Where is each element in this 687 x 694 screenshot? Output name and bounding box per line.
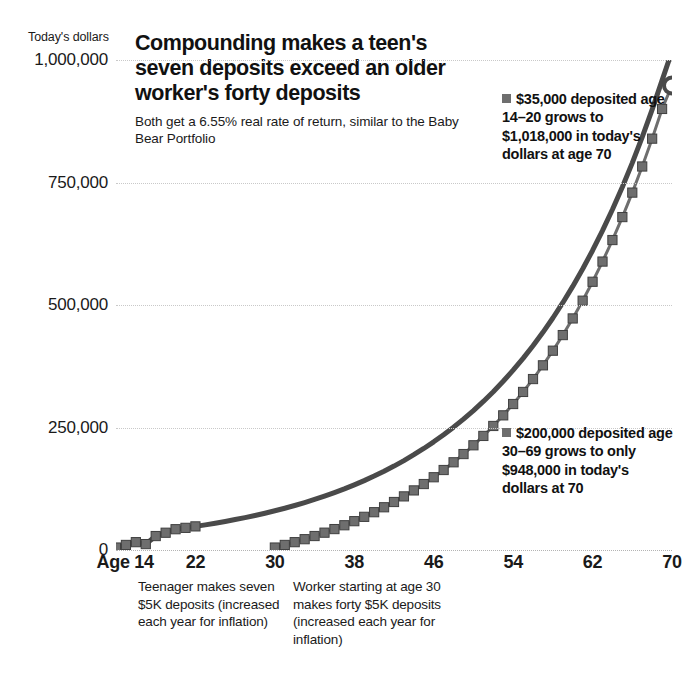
footnote-worker: Worker starting at age 30 makes forty $5… <box>293 578 458 648</box>
series-marker-worker <box>270 543 279 550</box>
chart-container: Today's dollars 0250,000500,000750,0001,… <box>0 0 687 694</box>
series-marker-worker <box>578 296 587 305</box>
y-tick-label-500000: 500,000 <box>8 295 108 315</box>
series-marker-teen <box>121 540 130 549</box>
annotation-teen: $35,000 deposited age 14–20 grows to $1,… <box>502 90 672 163</box>
series-marker-worker <box>638 162 647 171</box>
x-tick-label-38: 38 <box>345 552 364 573</box>
worker-series-swatch-icon <box>502 428 511 437</box>
series-marker-worker <box>409 486 418 495</box>
series-marker-worker <box>469 441 478 450</box>
series-marker-worker <box>379 503 388 512</box>
series-marker-worker <box>608 235 617 244</box>
series-marker-worker <box>528 374 537 383</box>
annotation-worker: $200,000 deposited age 30–69 grows to on… <box>502 424 677 497</box>
series-marker-worker <box>419 479 428 488</box>
series-marker-teen <box>181 523 190 532</box>
annotation-teen-text: $35,000 deposited age 14–20 grows to $1,… <box>502 91 665 162</box>
series-marker-teen <box>171 525 180 534</box>
series-marker-worker <box>439 465 448 474</box>
x-tick-label-70: 70 <box>662 552 681 573</box>
series-marker-worker <box>499 411 508 420</box>
gridline-0 <box>116 550 672 551</box>
footnote-teen: Teenager makes seven $5K deposits (incre… <box>138 578 288 631</box>
series-marker-worker <box>548 346 557 355</box>
y-tick-label-250000: 250,000 <box>8 418 108 438</box>
gridline-1000000 <box>116 60 672 61</box>
series-marker-worker <box>399 492 408 501</box>
series-marker-worker <box>518 387 527 396</box>
series-marker-worker <box>360 512 369 521</box>
y-tick-label-750000: 750,000 <box>8 173 108 193</box>
teen-series-swatch-icon <box>502 94 511 103</box>
x-tick-label-30: 30 <box>265 552 284 573</box>
series-marker-worker <box>618 212 627 221</box>
series-marker-worker <box>538 361 547 370</box>
series-marker-worker <box>389 497 398 506</box>
series-marker-worker <box>340 521 349 530</box>
x-tick-label-14: Age 14 <box>97 552 154 573</box>
series-marker-worker <box>509 399 518 408</box>
series-marker-worker <box>330 524 339 533</box>
series-marker-teen <box>141 539 150 548</box>
series-marker-worker <box>479 431 488 440</box>
series-marker-worker <box>320 528 329 537</box>
series-marker-teen <box>161 528 170 537</box>
y-tick-label-0: 0 <box>8 540 108 560</box>
x-tick-label-22: 22 <box>186 552 205 573</box>
series-marker-worker <box>568 314 577 323</box>
y-tick-label-1000000: 1,000,000 <box>8 50 108 70</box>
gridline-750000 <box>116 183 672 184</box>
annotation-worker-text: $200,000 deposited age 30–69 grows to on… <box>502 425 673 496</box>
series-marker-teen <box>151 531 160 540</box>
series-marker-worker <box>449 458 458 467</box>
series-marker-worker <box>290 538 299 547</box>
series-marker-worker <box>370 508 379 517</box>
series-marker-worker <box>459 449 468 458</box>
series-marker-worker <box>310 531 319 540</box>
series-marker-worker <box>300 535 309 544</box>
series-marker-worker <box>350 517 359 526</box>
series-marker-worker <box>628 188 637 197</box>
series-marker-worker <box>429 473 438 482</box>
series-marker-worker <box>280 540 289 549</box>
series-marker-teen <box>116 543 121 550</box>
series-marker-teen <box>191 522 200 531</box>
gridline-500000 <box>116 305 672 306</box>
series-marker-worker <box>598 257 607 266</box>
x-tick-label-54: 54 <box>503 552 522 573</box>
y-axis-tick-labels: 0250,000500,000750,0001,000,000 <box>0 0 108 694</box>
series-marker-worker <box>588 277 597 286</box>
series-marker-teen <box>131 538 140 547</box>
series-marker-worker <box>489 421 498 430</box>
series-marker-worker <box>558 330 567 339</box>
x-tick-label-62: 62 <box>583 552 602 573</box>
x-tick-label-46: 46 <box>424 552 443 573</box>
